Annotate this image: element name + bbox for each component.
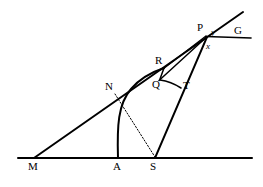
- point-label-R: R: [155, 55, 162, 66]
- point-label-T: T: [183, 80, 190, 91]
- point-label-P: P: [197, 22, 203, 33]
- point-label-G: G: [234, 25, 242, 36]
- curve-q-to-t: [160, 80, 181, 88]
- point-label-S: S: [150, 161, 156, 172]
- geometry-canvas: [0, 0, 263, 187]
- geometry-figure: M A S N Q R T P G y x: [0, 0, 263, 187]
- dotted-line-n-to-s: [115, 94, 155, 157]
- angle-label-x: x: [206, 42, 210, 51]
- segment-q-to-p: [159, 38, 206, 81]
- point-label-M: M: [28, 161, 38, 172]
- point-label-N: N: [105, 81, 113, 92]
- point-label-A: A: [113, 161, 121, 172]
- point-label-Q: Q: [152, 79, 160, 90]
- angle-label-y: y: [211, 28, 215, 37]
